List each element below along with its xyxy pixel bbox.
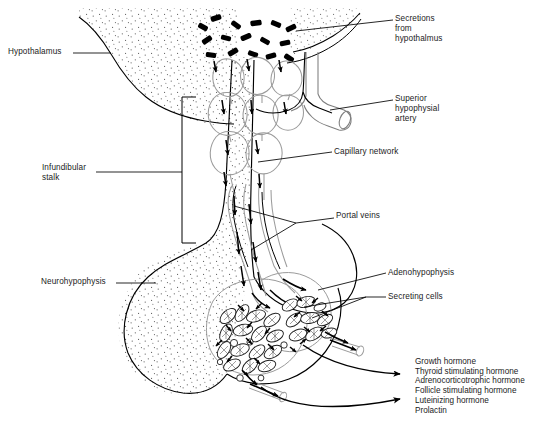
label-secreting-cells: Secreting cells: [388, 292, 443, 302]
label-superior-artery-line3: artery: [395, 114, 417, 124]
hormone-item: Growth hormone: [415, 357, 525, 367]
label-infundibular-stalk-line2: stalk: [42, 173, 59, 183]
hormone-item: Luteinizing hormone: [415, 396, 525, 406]
anatomy-diagram-figure: Hypothalamus Infundibular stalk Neurohyp…: [0, 0, 549, 427]
hormone-item: Thyroid stimulating hormone: [415, 367, 525, 377]
hormone-item: Adrenocorticotrophic hormone: [415, 376, 525, 386]
label-neurohypophysis: Neurohypophysis: [41, 277, 106, 287]
superior-hypophysial-artery: [291, 52, 353, 130]
label-secretions-line1: Secretions: [395, 14, 435, 24]
hypothalamus-right-wing: [287, 0, 378, 63]
label-infundibular-stalk-line1: Infundibular: [42, 163, 86, 173]
label-capillary-network: Capillary network: [334, 147, 399, 157]
label-adenohypophysis: Adenohypophysis: [388, 268, 454, 278]
label-secretions-line2: from: [395, 24, 412, 34]
label-superior-artery-line1: Superior: [395, 94, 427, 104]
label-hypothalamus: Hypothalamus: [8, 47, 62, 57]
label-secretions-line3: hypothalmus: [395, 34, 443, 44]
label-portal-veins: Portal veins: [336, 211, 380, 221]
hormone-item: Follicle stimulating hormone: [415, 386, 525, 396]
hormone-output-arrows: [261, 345, 400, 407]
hormone-item: Prolactin: [415, 406, 525, 416]
label-superior-artery-line2: hypophysial: [395, 104, 439, 114]
hormone-output-list: Growth hormone Thyroid stimulating hormo…: [415, 357, 525, 415]
